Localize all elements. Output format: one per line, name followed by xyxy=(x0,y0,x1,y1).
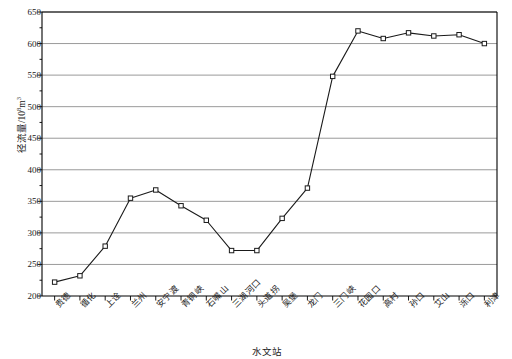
y-tick-label: 350 xyxy=(11,197,41,206)
data-point-marker xyxy=(356,29,360,33)
data-point-marker xyxy=(78,274,82,278)
y-tick-label: 600 xyxy=(11,39,41,48)
y-tick-label: 200 xyxy=(11,292,41,301)
y-tick-label: 250 xyxy=(11,260,41,269)
y-tick-label: 400 xyxy=(11,165,41,174)
data-point-marker xyxy=(179,204,183,208)
data-point-marker xyxy=(457,33,461,37)
data-point-marker xyxy=(432,34,436,38)
data-point-marker xyxy=(280,216,284,220)
data-point-marker xyxy=(128,196,132,200)
data-point-marker xyxy=(330,74,334,78)
data-point-marker xyxy=(406,31,410,35)
data-point-marker xyxy=(381,36,385,40)
data-point-marker xyxy=(52,280,56,284)
data-point-marker xyxy=(482,41,486,45)
data-point-marker xyxy=(103,244,107,248)
data-line-runoff xyxy=(55,31,485,282)
y-tick-label: 450 xyxy=(11,134,41,143)
y-tick-label: 500 xyxy=(11,102,41,111)
y-tick-label: 650 xyxy=(11,8,41,17)
data-point-marker xyxy=(229,248,233,252)
data-point-marker xyxy=(154,188,158,192)
data-point-marker xyxy=(305,186,309,190)
y-axis-tick-labels: 200250300350400450500550600650 xyxy=(8,0,41,359)
x-axis-title: 水文站 xyxy=(252,344,282,358)
data-point-marker xyxy=(255,248,259,252)
data-point-marker xyxy=(204,218,208,222)
runoff-line-chart: 径流量/108m3 200250300350400450500550600650… xyxy=(0,0,512,359)
y-tick-label: 550 xyxy=(11,71,41,80)
y-tick-label: 300 xyxy=(11,228,41,237)
